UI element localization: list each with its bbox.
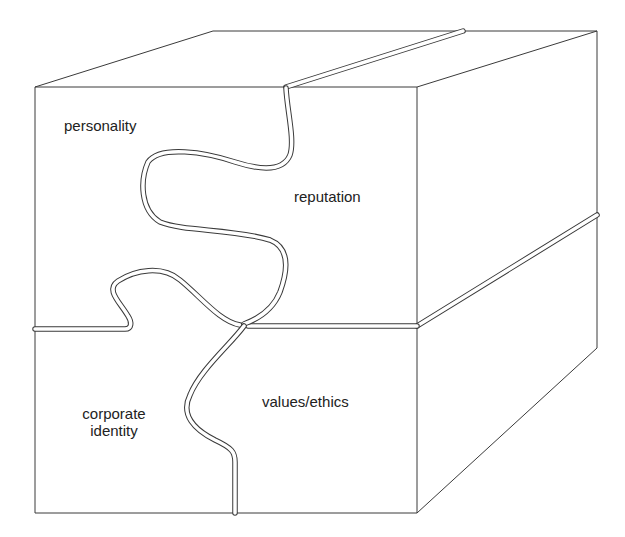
piece-label-corporate-identity: corporate identity (74, 405, 154, 439)
block-outline (35, 31, 597, 513)
corporate-identity-line-2: identity (74, 422, 154, 439)
piece-label-values-ethics: values/ethics (262, 393, 349, 410)
piece-label-reputation: reputation (294, 188, 361, 205)
top-groove-seam (286, 31, 463, 87)
block-diagram (0, 0, 625, 537)
corporate-identity-line-1: corporate (74, 405, 154, 422)
right-face-seam (417, 215, 597, 326)
piece-label-personality: personality (64, 117, 137, 134)
jigsaw-seam (35, 88, 292, 513)
